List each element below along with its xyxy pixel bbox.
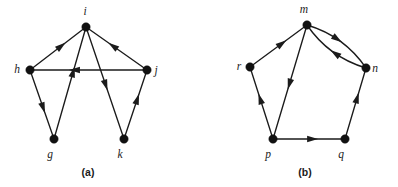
edge-j-to-h xyxy=(30,67,147,74)
panel-caption-b: (b) xyxy=(298,166,311,178)
vertex-node-g xyxy=(50,135,58,143)
vertex-node-r xyxy=(246,63,254,71)
graph-panel-a: ihjgk(a) xyxy=(14,5,157,178)
vertex-node-m xyxy=(303,21,311,29)
arrow-head-icon xyxy=(307,136,318,143)
arrow-head-icon xyxy=(38,102,45,113)
arrow-head-icon xyxy=(132,94,139,105)
vertex-node-h xyxy=(26,66,34,74)
edge-segment xyxy=(54,27,86,139)
edge-m-to-n xyxy=(307,25,366,68)
vertex-label-h: h xyxy=(14,63,20,75)
graph-panel-b: mrnpq(b) xyxy=(237,3,378,178)
vertex-node-n xyxy=(362,64,370,72)
edge-p-to-q xyxy=(273,136,345,143)
directed-graphs-figure: ihjgk(a)mrnpq(b) xyxy=(0,0,398,187)
edge-curve xyxy=(307,25,366,68)
edge-p-to-r xyxy=(250,67,273,139)
vertex-label-p: p xyxy=(264,148,271,161)
vertex-label-i: i xyxy=(83,5,86,17)
edge-r-to-m xyxy=(250,25,307,67)
arrow-head-icon xyxy=(331,50,342,59)
vertex-node-p xyxy=(269,135,277,143)
arrow-head-icon xyxy=(69,67,75,78)
arrow-head-icon xyxy=(258,93,264,104)
edge-curve xyxy=(307,25,366,68)
vertex-label-j: j xyxy=(152,64,157,77)
arrow-head-icon xyxy=(55,43,66,52)
edge-group xyxy=(250,25,366,142)
panel-caption-a: (a) xyxy=(82,166,95,178)
arrow-head-icon xyxy=(101,79,108,90)
vertex-label-m: m xyxy=(300,3,308,15)
vertex-label-r: r xyxy=(237,60,242,72)
edge-segment xyxy=(345,68,366,139)
edge-k-to-j xyxy=(124,70,147,139)
edge-m-to-p xyxy=(273,25,307,139)
vertex-label-n: n xyxy=(372,62,378,74)
arrow-head-icon xyxy=(288,78,294,89)
vertex-node-q xyxy=(341,135,349,143)
edge-h-to-i xyxy=(30,27,86,70)
vertex-node-k xyxy=(120,135,128,143)
vertex-group: ihjgk xyxy=(14,5,157,161)
arrow-head-icon xyxy=(276,40,287,49)
edge-i-to-k xyxy=(86,27,124,139)
arrow-head-icon xyxy=(108,43,119,52)
vertex-node-j xyxy=(143,66,151,74)
arrow-head-icon xyxy=(331,33,342,42)
edge-g-to-i xyxy=(54,27,86,139)
edge-j-to-i xyxy=(86,27,147,70)
edge-group xyxy=(30,27,147,139)
figure-container: ihjgk(a)mrnpq(b) xyxy=(0,0,398,187)
edge-n-to-m xyxy=(307,25,366,68)
edge-segment xyxy=(124,70,147,139)
vertex-label-g: g xyxy=(47,148,53,161)
vertex-label-q: q xyxy=(338,148,344,161)
edge-q-to-n xyxy=(345,68,366,139)
vertex-label-k: k xyxy=(117,148,123,160)
arrow-head-icon xyxy=(352,93,358,104)
vertex-node-i xyxy=(82,23,90,31)
edge-h-to-g xyxy=(30,70,54,139)
